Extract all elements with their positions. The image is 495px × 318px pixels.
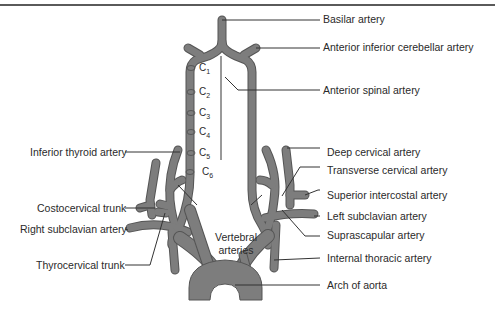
label-left-subclavian-artery: Left subclavian artery <box>327 210 427 222</box>
vertebra-label-c2: C2 <box>199 86 210 101</box>
vertebra-label-c6: C6 <box>202 166 213 181</box>
label-transverse-cervical-artery: Transverse cervical artery <box>327 164 447 176</box>
label-basilar-artery: Basilar artery <box>323 13 385 25</box>
label-deep-cervical-artery: Deep cervical artery <box>327 146 420 158</box>
label-suprascapular-artery: Suprascapular artery <box>327 229 424 241</box>
vertebra-label-c4: C4 <box>199 126 210 141</box>
label-right-subclavian-artery: Right subclavian artery <box>20 223 127 235</box>
label-superior-intercostal-artery: Superior intercostal artery <box>327 189 447 201</box>
label-internal-thoracic-artery: Internal thoracic artery <box>327 252 431 264</box>
label-vertebral-arteries: Vertebral arteries <box>206 231 266 257</box>
label-inferior-thyroid-artery: Inferior thyroid artery <box>30 146 127 158</box>
vertebra-label-c1: C1 <box>199 62 210 77</box>
label-costocervical-trunk: Costocervical trunk <box>37 202 126 214</box>
label-anterior-spinal-artery: Anterior spinal artery <box>323 84 420 96</box>
label-thyrocervical-trunk: Thyrocervical trunk <box>36 259 125 271</box>
label-arch-of-aorta: Arch of aorta <box>327 279 387 291</box>
vertebra-label-c3: C3 <box>199 107 210 122</box>
vertebra-label-c5: C5 <box>199 147 210 162</box>
label-anterior-inferior-cerebellar-artery: Anterior inferior cerebellar artery <box>323 41 474 53</box>
